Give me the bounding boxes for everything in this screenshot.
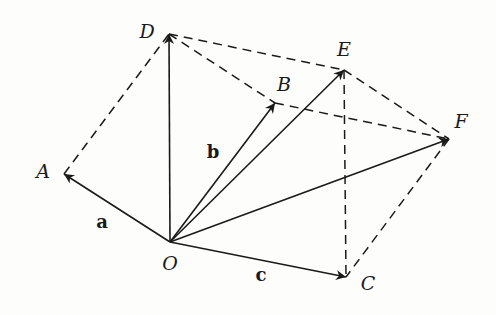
vector-OB-arrow-icon: [170, 103, 275, 242]
dashed-line-EC: [344, 70, 346, 277]
dashed-line-AD: [64, 34, 169, 174]
point-label-C: C: [361, 272, 376, 294]
vector-OE-arrow-icon: [170, 70, 344, 242]
point-label-D: D: [138, 20, 154, 42]
dashed-line-DE: [169, 34, 344, 70]
vector-label-c: c: [256, 264, 267, 285]
dashed-line-FC: [346, 139, 449, 277]
point-label-B: B: [276, 73, 291, 95]
vector-OA-arrow-icon: [64, 174, 170, 242]
vector-label-a: a: [96, 211, 108, 232]
vector-OD-arrow-icon: [169, 34, 170, 242]
diagram-canvas: O A D B E F C a b c: [0, 0, 496, 315]
point-label-O: O: [162, 252, 178, 274]
point-label-E: E: [336, 38, 351, 60]
point-label-F: F: [453, 110, 468, 132]
vector-label-b: b: [207, 141, 220, 162]
vector-diagram: O A D B E F C a b c: [0, 0, 496, 315]
point-label-A: A: [34, 160, 50, 182]
position-vectors: [64, 34, 449, 277]
